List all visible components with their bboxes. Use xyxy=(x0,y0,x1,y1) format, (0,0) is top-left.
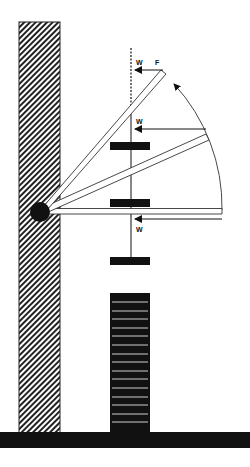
weight-plate-middle xyxy=(110,199,150,207)
weight-plate-top xyxy=(110,142,150,150)
wall xyxy=(19,22,60,433)
label-w-top: W xyxy=(136,59,143,66)
weight-plate-bottom xyxy=(110,257,150,265)
label-w-bottom: W xyxy=(136,226,143,233)
ground xyxy=(0,432,250,448)
weight-stack xyxy=(110,293,150,433)
pivot xyxy=(30,202,50,222)
arm-top xyxy=(43,70,166,210)
lever-diagram: W F W W xyxy=(0,0,250,467)
label-f-top: F xyxy=(155,59,160,66)
arm-horizontal xyxy=(44,209,222,215)
label-w-middle: W xyxy=(136,118,143,125)
